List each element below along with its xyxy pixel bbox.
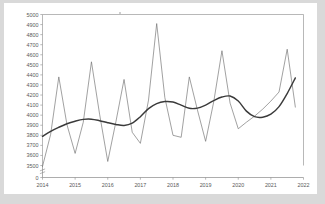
y-tick-label: 4100 — [27, 102, 39, 108]
y-tick-label: 4000 — [27, 112, 39, 118]
y-tick-label: 3600 — [27, 152, 39, 158]
chart-card: 0350036003700380039004000410042004300440… — [4, 3, 317, 194]
x-tick-label: 2014 — [37, 182, 49, 188]
screenshot-root: 0350036003700380039004000410042004300440… — [0, 0, 325, 204]
x-tick-label: 2018 — [167, 182, 179, 188]
y-tick-label: 4200 — [27, 92, 39, 98]
y-tick-label: 4300 — [27, 82, 39, 88]
y-tick-label: 4500 — [27, 62, 39, 68]
x-tick-label: 2015 — [69, 182, 81, 188]
y-tick-label: 4400 — [27, 72, 39, 78]
y-tick-label: 3700 — [27, 142, 39, 148]
line-chart[interactable]: 0350036003700380039004000410042004300440… — [4, 3, 317, 194]
chart-figure: 0350036003700380039004000410042004300440… — [4, 3, 317, 194]
x-tick-label: 2022 — [298, 182, 310, 188]
y-tick-label: 4900 — [27, 22, 39, 28]
y-tick-label: 5000 — [27, 12, 39, 18]
chart-background — [4, 3, 317, 194]
y-tick-label: 4600 — [27, 52, 39, 58]
x-tick-label: 2016 — [102, 182, 114, 188]
x-tick-label: 2021 — [265, 182, 277, 188]
x-tick-label: 2017 — [134, 182, 146, 188]
y-tick-label: 3800 — [27, 132, 39, 138]
y-tick-label: 0 — [36, 175, 39, 181]
y-tick-label: 3900 — [27, 122, 39, 128]
x-tick-label: 2019 — [200, 182, 212, 188]
y-tick-label: 4800 — [27, 32, 39, 38]
x-tick-label: 2020 — [232, 182, 244, 188]
artifact-speck — [119, 12, 121, 14]
y-tick-label: 4700 — [27, 42, 39, 48]
y-tick-label: 3500 — [27, 163, 39, 169]
